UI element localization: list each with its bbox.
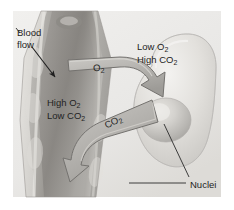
label-vessel-gas-concentration: High O2 Low CO2	[47, 97, 85, 122]
label-high-carbon-dioxide-text: High CO	[137, 54, 173, 65]
label-low-carbon-dioxide-text: Low CO	[47, 110, 81, 121]
label-oxygen-on-arrow: O2	[93, 62, 105, 74]
figure-canvas: Blood flow High O2 Low CO2 Low O2 High C…	[0, 0, 234, 210]
label-blood-flow-line2: flow	[17, 39, 41, 51]
label-blood-flow-line1: Blood	[17, 27, 41, 39]
label-oxygen-on-arrow-subscript: 2	[100, 67, 104, 74]
label-low-oxygen-subscript: 2	[164, 46, 168, 53]
label-blood-flow: Blood flow	[17, 27, 41, 51]
label-low-carbon-dioxide: Low CO2	[47, 110, 85, 123]
label-low-carbon-dioxide-subscript: 2	[81, 115, 85, 122]
label-high-oxygen-subscript: 2	[77, 102, 81, 109]
label-high-oxygen-text: High O	[47, 97, 77, 108]
label-nuclei: Nuclei	[190, 179, 216, 190]
label-low-oxygen-text: Low O	[137, 41, 164, 52]
label-high-carbon-dioxide-subscript: 2	[173, 59, 177, 66]
label-cell-gas-concentration: Low O2 High CO2	[137, 41, 177, 66]
label-high-carbon-dioxide: High CO2	[137, 54, 177, 67]
label-low-oxygen: Low O2	[137, 41, 177, 54]
label-high-oxygen: High O2	[47, 97, 85, 110]
